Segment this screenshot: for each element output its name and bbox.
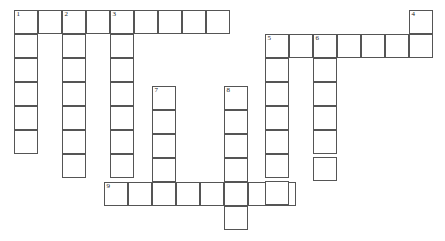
crossword-cell[interactable]	[224, 158, 248, 182]
crossword-cell[interactable]	[14, 34, 38, 58]
crossword-cell[interactable]	[62, 130, 86, 154]
crossword-cell[interactable]	[265, 154, 289, 178]
crossword-cell[interactable]	[62, 154, 86, 178]
crossword-cell[interactable]	[224, 206, 248, 230]
crossword-cell[interactable]	[86, 10, 110, 34]
crossword-cell[interactable]	[313, 157, 337, 181]
crossword-cell[interactable]	[265, 181, 289, 205]
crossword-cell[interactable]	[265, 82, 289, 106]
crossword-cell[interactable]	[62, 58, 86, 82]
crossword-cell-numbered[interactable]: 8	[224, 86, 248, 110]
crossword-cell[interactable]	[361, 34, 385, 58]
crossword-cell-numbered[interactable]: 9	[104, 182, 128, 206]
clue-number-1: 1	[17, 10, 21, 19]
crossword-cell[interactable]	[152, 134, 176, 158]
crossword-grid[interactable]: 123456789	[0, 0, 445, 241]
crossword-cell[interactable]	[337, 34, 361, 58]
crossword-cell[interactable]	[313, 82, 337, 106]
crossword-cell[interactable]	[265, 130, 289, 154]
crossword-cell[interactable]	[14, 58, 38, 82]
crossword-cell[interactable]	[224, 110, 248, 134]
clue-number-7: 7	[155, 86, 159, 95]
crossword-cell[interactable]	[62, 34, 86, 58]
crossword-cell[interactable]	[182, 10, 206, 34]
crossword-cell[interactable]	[110, 58, 134, 82]
crossword-cell[interactable]	[62, 82, 86, 106]
crossword-cell[interactable]	[224, 182, 248, 206]
crossword-cell[interactable]	[224, 134, 248, 158]
crossword-cell[interactable]	[158, 10, 182, 34]
crossword-cell-numbered[interactable]: 7	[152, 86, 176, 110]
crossword-cell[interactable]	[14, 106, 38, 130]
crossword-cell[interactable]	[313, 58, 337, 82]
crossword-cell-numbered[interactable]: 1	[14, 10, 38, 34]
crossword-cell[interactable]	[128, 182, 152, 206]
crossword-cell[interactable]	[110, 154, 134, 178]
crossword-cell[interactable]	[110, 130, 134, 154]
crossword-cell[interactable]	[206, 10, 230, 34]
crossword-cell[interactable]	[265, 106, 289, 130]
crossword-cell[interactable]	[265, 58, 289, 82]
crossword-cell[interactable]	[152, 158, 176, 182]
crossword-cell[interactable]	[14, 82, 38, 106]
crossword-cell[interactable]	[14, 130, 38, 154]
crossword-cell[interactable]	[110, 82, 134, 106]
crossword-cell[interactable]	[110, 106, 134, 130]
crossword-cell-numbered[interactable]: 6	[313, 34, 337, 58]
crossword-cell[interactable]	[152, 110, 176, 134]
clue-number-6: 6	[316, 34, 320, 43]
crossword-cell-numbered[interactable]: 4	[409, 10, 433, 34]
crossword-cell[interactable]	[38, 10, 62, 34]
clue-number-5: 5	[268, 34, 272, 43]
clue-number-2: 2	[65, 10, 69, 19]
crossword-cell[interactable]	[385, 34, 409, 58]
crossword-cell[interactable]	[409, 34, 433, 58]
crossword-cell[interactable]	[200, 182, 224, 206]
crossword-cell-numbered[interactable]: 3	[110, 10, 134, 34]
clue-number-9: 9	[107, 182, 111, 191]
clue-number-4: 4	[412, 10, 416, 19]
crossword-cell-numbered[interactable]: 2	[62, 10, 86, 34]
crossword-cell[interactable]	[152, 182, 176, 206]
crossword-cell[interactable]	[134, 10, 158, 34]
crossword-puzzle: 123456789	[0, 0, 445, 241]
crossword-cell-numbered[interactable]: 5	[265, 34, 289, 58]
crossword-cell[interactable]	[289, 34, 313, 58]
crossword-cell[interactable]	[62, 106, 86, 130]
crossword-cell[interactable]	[313, 106, 337, 130]
crossword-cell[interactable]	[110, 34, 134, 58]
crossword-cell[interactable]	[313, 130, 337, 154]
clue-number-3: 3	[113, 10, 117, 19]
clue-number-8: 8	[227, 86, 231, 95]
crossword-cell[interactable]	[176, 182, 200, 206]
